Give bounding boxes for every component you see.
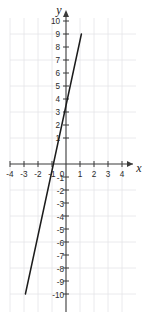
y-tick-label: 2 bbox=[55, 121, 60, 130]
y-tick-label: -1 bbox=[57, 174, 65, 183]
y-tick-label: -4 bbox=[57, 213, 65, 222]
y-tick-label: 4 bbox=[55, 95, 60, 104]
x-axis-arrowhead bbox=[127, 161, 133, 167]
y-tick-label: -5 bbox=[57, 226, 65, 235]
x-tick-label: -4 bbox=[6, 170, 14, 179]
y-tick-label: 3 bbox=[55, 108, 60, 117]
y-tick-label: -8 bbox=[57, 265, 65, 274]
y-tick-label: -10 bbox=[52, 291, 64, 300]
y-tick-label: 7 bbox=[55, 56, 60, 65]
y-tick-label: 9 bbox=[55, 30, 60, 39]
x-tick-label: -2 bbox=[34, 170, 42, 179]
y-tick-label: -3 bbox=[57, 200, 65, 209]
grid-lines bbox=[10, 18, 136, 312]
x-tick-label: 3 bbox=[106, 170, 111, 179]
x-tick-label: 4 bbox=[120, 170, 125, 179]
y-axis-tick-labels: 10 9 8 7 6 5 4 3 2 1 -1 -2 -3 -4 -5 -6 -… bbox=[51, 17, 65, 300]
y-tick-label: -7 bbox=[57, 252, 65, 261]
y-tick-label: -9 bbox=[57, 278, 65, 287]
x-axis-label: x bbox=[135, 161, 142, 175]
y-tick-label: 6 bbox=[55, 69, 60, 78]
x-axis bbox=[10, 161, 133, 167]
y-axis-label: y bbox=[55, 3, 62, 17]
y-axis-arrowhead bbox=[63, 10, 69, 17]
x-tick-label: 1 bbox=[78, 170, 83, 179]
x-tick-label: -3 bbox=[20, 170, 28, 179]
x-tick-label: 2 bbox=[92, 170, 97, 179]
graph-canvas: -4 -3 -2 -1 0 1 2 3 4 10 9 8 7 6 5 4 3 2… bbox=[0, 0, 151, 325]
y-tick-label: 5 bbox=[55, 82, 60, 91]
y-tick-label: 8 bbox=[55, 43, 60, 52]
y-tick-label: -6 bbox=[57, 239, 65, 248]
y-tick-label: 10 bbox=[51, 17, 61, 26]
y-tick-label: -2 bbox=[57, 187, 65, 196]
coordinate-plane-figure: -4 -3 -2 -1 0 1 2 3 4 10 9 8 7 6 5 4 3 2… bbox=[0, 0, 151, 325]
